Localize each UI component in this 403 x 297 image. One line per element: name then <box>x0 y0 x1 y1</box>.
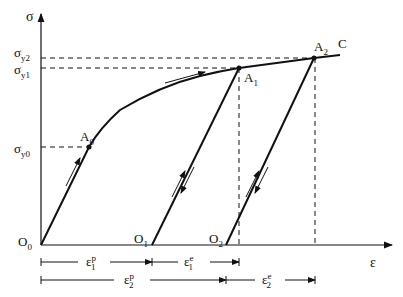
label-sigma-y2: σy2 <box>14 46 30 59</box>
label-C: C <box>338 37 347 50</box>
label-sigma-y1: σy1 <box>14 63 30 76</box>
label-eps2e: εe2 <box>262 273 271 286</box>
point-A2 <box>312 56 317 61</box>
dashed-guides <box>41 58 315 245</box>
x-axis-label: ε <box>370 256 376 270</box>
unload-line-1 <box>152 68 239 245</box>
label-O2: O2 <box>209 232 223 245</box>
loading-curve <box>41 55 340 245</box>
label-eps1p: εp1 <box>86 255 95 268</box>
point-A1 <box>237 66 242 71</box>
label-eps2p: εp2 <box>124 273 133 286</box>
label-A0: A0 <box>80 130 94 143</box>
label-A1: A1 <box>244 71 258 84</box>
label-sigma-y0: σy0 <box>14 142 30 155</box>
label-O1: O1 <box>134 232 148 245</box>
label-A2: A2 <box>314 40 328 53</box>
y-axis-label: σ <box>26 10 34 24</box>
label-eps1e: εe1 <box>184 255 193 268</box>
dimension-lines <box>41 258 315 284</box>
label-O0: O0 <box>18 235 32 248</box>
